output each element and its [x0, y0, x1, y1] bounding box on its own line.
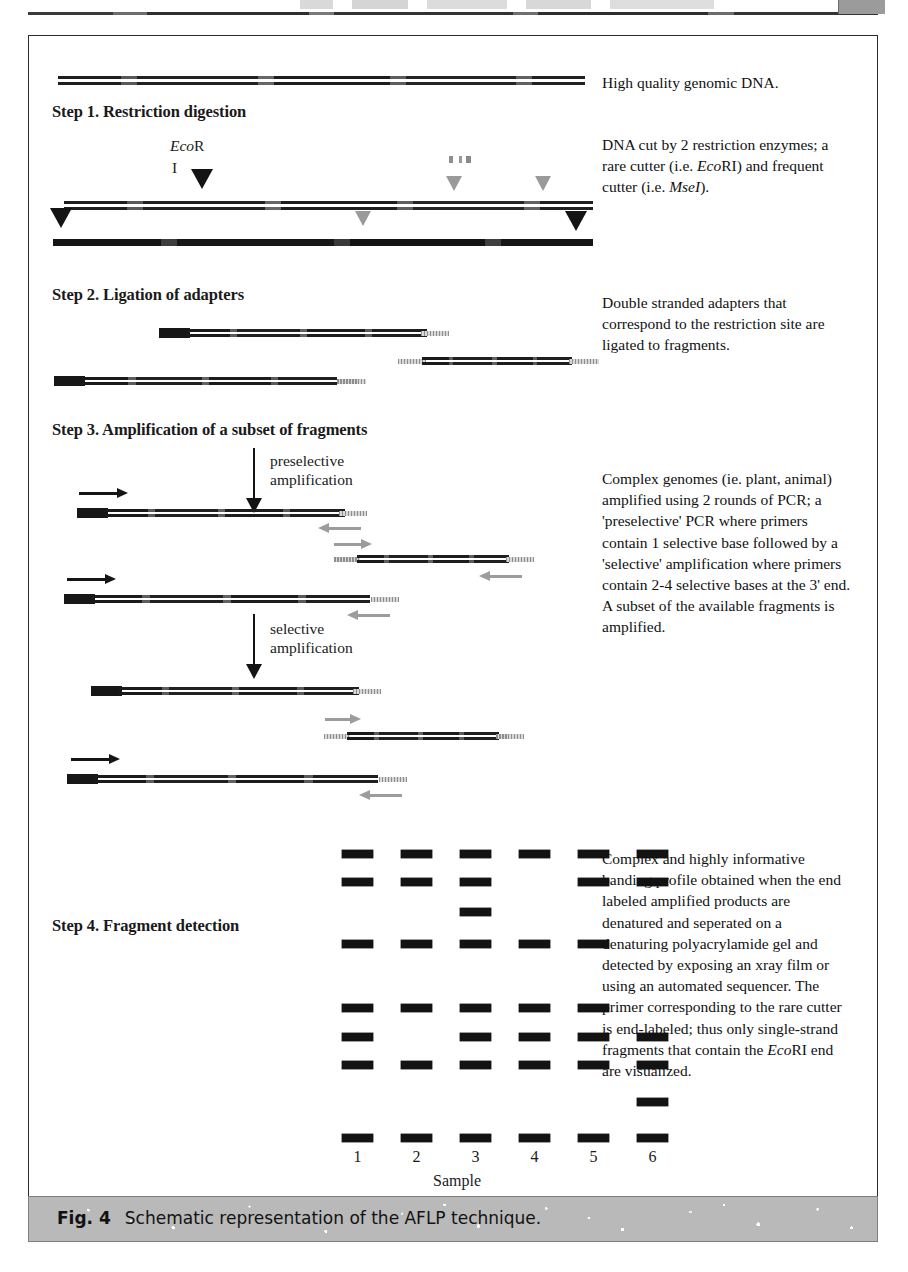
gel-lane-number-6: 6	[637, 1148, 668, 1166]
figure-caption: Fig. 4Schematic representation of the AF…	[57, 1208, 541, 1228]
figure-body: Step 1. Restriction digestion EcoR I Ste…	[29, 36, 877, 1169]
page-header-strip	[0, 0, 908, 40]
note-restriction: DNA cut by 2 restriction enzymes; a rare…	[602, 134, 852, 198]
figure-caption-text: Schematic representation of the AFLP tec…	[125, 1208, 541, 1228]
note-genomic-dna: High quality genomic DNA.	[602, 72, 852, 93]
note-amplification: Complex genomes (ie. plant, animal) ampl…	[602, 468, 852, 638]
gel-axis-label: Sample	[433, 1172, 481, 1190]
header-running-text	[300, 0, 770, 9]
note-italic-term: MseI	[669, 178, 700, 195]
figure-caption-bar: Fig. 4Schematic representation of the AF…	[28, 1196, 878, 1242]
gel-lane-number-1: 1	[342, 1148, 373, 1166]
header-gray-tab	[838, 0, 885, 14]
note-italic-term: Eco	[697, 157, 721, 174]
note-adapters: Double stranded adapters that correspond…	[602, 292, 852, 356]
gel-lane-number-4: 4	[519, 1148, 550, 1166]
note-detection: Complex and highly informative banding p…	[602, 848, 852, 1081]
figure-frame: Step 1. Restriction digestion EcoR I Ste…	[28, 35, 878, 1220]
note-text-run: Complex and highly informative banding p…	[602, 850, 842, 1058]
figure-caption-label: Fig. 4	[57, 1208, 111, 1228]
note-text-run: ).	[700, 178, 709, 195]
gel-lane-number-2: 2	[401, 1148, 432, 1166]
header-rule	[28, 12, 878, 15]
gel-lane-number-5: 5	[578, 1148, 609, 1166]
note-italic-term: Eco	[767, 1041, 791, 1058]
gel-lane-number-3: 3	[460, 1148, 491, 1166]
